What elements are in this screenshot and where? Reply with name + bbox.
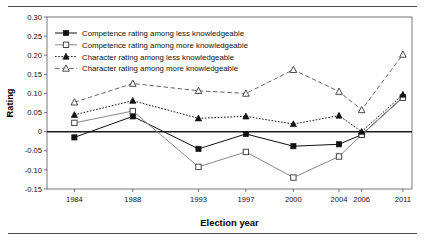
- y-axis-tick-label: 0.10: [27, 89, 42, 98]
- data-point-marker: [336, 154, 341, 159]
- data-point-marker: [336, 88, 343, 94]
- data-point-marker: [130, 97, 136, 103]
- legend-label-2: Character rating among less knowledgeabl…: [82, 53, 234, 62]
- legend-label-3: Character rating among more knowledgeabl…: [82, 64, 238, 73]
- x-axis-title: Election year: [200, 217, 259, 228]
- y-axis-tick-label: 0.25: [27, 32, 42, 41]
- data-point-marker: [336, 112, 342, 118]
- y-axis-tick-label: 0: [38, 127, 42, 136]
- data-point-marker: [336, 142, 341, 147]
- figure-container: 0.300.250.200.150.100.050-0.05-0.10-0.15…: [0, 0, 425, 241]
- data-point-marker: [129, 80, 136, 86]
- x-axis-tick-label: 2004: [331, 195, 348, 204]
- x-axis-tick-label: 2000: [285, 195, 302, 204]
- x-axis-tick-label: 1997: [237, 195, 254, 204]
- legend-label-0: Competence rating among less knowledgeab…: [82, 29, 244, 38]
- legend-marker-0: [63, 30, 68, 35]
- y-axis-title: Rating: [4, 88, 15, 117]
- data-point-marker: [72, 120, 77, 125]
- y-axis-tick-label: 0.30: [27, 13, 42, 22]
- y-axis-tick-label: 0.20: [27, 51, 42, 60]
- y-axis-tick-label: -0.10: [25, 166, 42, 175]
- x-axis-tick-label: 1988: [124, 195, 141, 204]
- bottom-horizontal-rule: [8, 233, 417, 234]
- y-axis-tick-label: 0.15: [27, 70, 42, 79]
- series-line-3: [74, 54, 403, 109]
- data-point-marker: [72, 135, 77, 140]
- x-axis-tick-label: 1993: [190, 195, 207, 204]
- y-axis-tick-label: -0.05: [25, 146, 42, 155]
- data-point-marker: [243, 149, 248, 154]
- series-2: [71, 91, 406, 134]
- series-line-0: [74, 97, 403, 149]
- data-point-marker: [130, 114, 135, 119]
- data-point-marker: [71, 112, 77, 118]
- data-point-marker: [196, 164, 201, 169]
- x-axis-tick-label: 1984: [66, 195, 83, 204]
- data-point-marker: [130, 108, 135, 113]
- data-point-marker: [400, 91, 406, 97]
- data-point-marker: [290, 66, 297, 72]
- legend-marker-1: [63, 42, 68, 47]
- legend-label-1: Competence rating among more knowledgeab…: [82, 41, 248, 50]
- data-point-marker: [291, 144, 296, 149]
- data-point-marker: [243, 131, 248, 136]
- x-axis-tick-label: 2011: [395, 195, 411, 204]
- data-point-marker: [291, 175, 296, 180]
- data-point-marker: [358, 106, 365, 112]
- x-axis-tick-label: 2006: [353, 195, 370, 204]
- chart-legend: Competence rating among less knowledgeab…: [55, 29, 248, 73]
- y-axis-tick-label: -0.15: [25, 185, 42, 194]
- data-point-marker: [400, 51, 407, 57]
- data-point-marker: [196, 146, 201, 151]
- y-axis-tick-label: 0.05: [27, 108, 42, 117]
- line-chart: 0.300.250.200.150.100.050-0.05-0.10-0.15…: [0, 0, 425, 241]
- top-horizontal-rule: [8, 6, 417, 7]
